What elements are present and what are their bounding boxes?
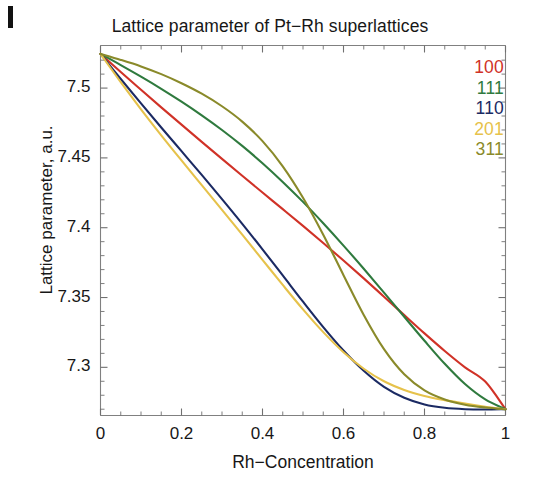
x-tick-label: 0.2 <box>162 424 202 444</box>
legend-entry-110: 110 <box>452 98 504 119</box>
y-tick-label: 7.4 <box>31 217 91 237</box>
y-tick-label: 7.35 <box>31 287 91 307</box>
y-tick-label: 7.5 <box>31 77 91 97</box>
legend-entry-311: 311 <box>452 139 504 160</box>
plot-frame <box>101 46 506 416</box>
y-tick-label: 7.45 <box>31 147 91 167</box>
y-tick-label: 7.3 <box>31 356 91 376</box>
x-tick-label: 0.6 <box>324 424 364 444</box>
data-series-group <box>101 54 506 410</box>
axis-ticks <box>101 46 506 416</box>
x-tick-label: 0.4 <box>243 424 283 444</box>
x-tick-label: 1 <box>486 424 526 444</box>
legend-entry-201: 201 <box>452 119 504 140</box>
chart-legend: 100111110201311 <box>452 57 504 160</box>
figure-panel: Lattice parameter of Pt−Rh superlattices… <box>0 0 540 489</box>
legend-entry-111: 111 <box>452 78 504 99</box>
x-tick-label: 0 <box>81 424 121 444</box>
legend-entry-100: 100 <box>452 57 504 78</box>
x-tick-label: 0.8 <box>405 424 445 444</box>
series-line-100 <box>101 54 506 409</box>
